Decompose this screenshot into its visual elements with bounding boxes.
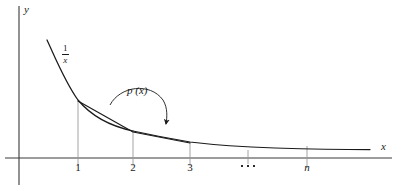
plot-canvas — [0, 0, 406, 191]
curve-label-one-over-x: 1 x — [62, 44, 69, 65]
fraction-denominator: x — [62, 55, 69, 65]
figure-container: y x 1 x p (x) 1 2 3 n — [0, 0, 406, 191]
x-tick-label-1: 1 — [73, 162, 83, 173]
fraction-numerator: 1 — [62, 44, 69, 54]
x-tick-label-n: n — [302, 162, 312, 173]
x-tick-label-2: 2 — [128, 162, 138, 173]
curve-p-of-x — [78, 101, 190, 143]
ellipsis-dot — [247, 165, 249, 167]
ellipsis-dot — [241, 165, 243, 167]
y-axis-label: y — [24, 4, 29, 15]
curve-label-p-of-x: p (x) — [127, 85, 147, 96]
ellipsis-dot — [253, 165, 255, 167]
curve-one-over-x — [47, 40, 370, 150]
x-tick-label-3: 3 — [185, 162, 195, 173]
x-tick-label-ellipsis — [241, 165, 255, 167]
x-axis-label: x — [381, 141, 386, 152]
